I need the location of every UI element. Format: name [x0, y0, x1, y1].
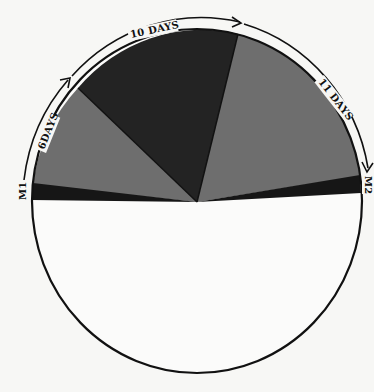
label-m2: M2 — [363, 176, 374, 195]
label-m1: M1 — [17, 181, 28, 200]
label-m1-group: M1 — [17, 181, 29, 202]
label-m2-group: M2 — [362, 174, 374, 195]
cycle-diagram: 6DAYS 10 DAYS 11 DAYS M1 M2 — [0, 0, 374, 392]
